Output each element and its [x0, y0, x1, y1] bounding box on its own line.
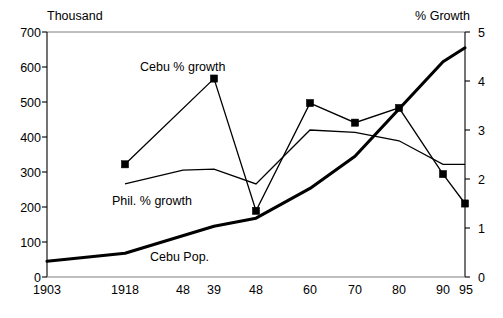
- series-line-cebu-pop: [47, 48, 465, 261]
- marker-cebu-growth-48: [252, 207, 259, 214]
- marker-cebu-growth-80: [395, 104, 402, 111]
- series-line-phil-growth: [125, 130, 465, 184]
- data-series-group: [47, 48, 469, 261]
- axis-tick-marks: [42, 32, 470, 277]
- marker-cebu-growth-39: [210, 75, 217, 82]
- marker-cebu-growth-90: [439, 171, 446, 178]
- marker-cebu-growth-1918: [121, 161, 128, 168]
- marker-cebu-growth-60: [306, 99, 313, 106]
- series-label-cebu-growth: Cebu % growth: [140, 60, 225, 74]
- chart-container: Thousand % Growth 7006005004003002001000…: [0, 0, 503, 318]
- series-label-phil-growth: Phil. % growth: [112, 194, 192, 208]
- plot-area: [0, 0, 503, 318]
- series-label-cebu-pop: Cebu Pop.: [150, 250, 209, 264]
- plot-frame: [47, 32, 465, 277]
- marker-cebu-growth-95: [461, 200, 468, 207]
- marker-cebu-growth-70: [351, 119, 358, 126]
